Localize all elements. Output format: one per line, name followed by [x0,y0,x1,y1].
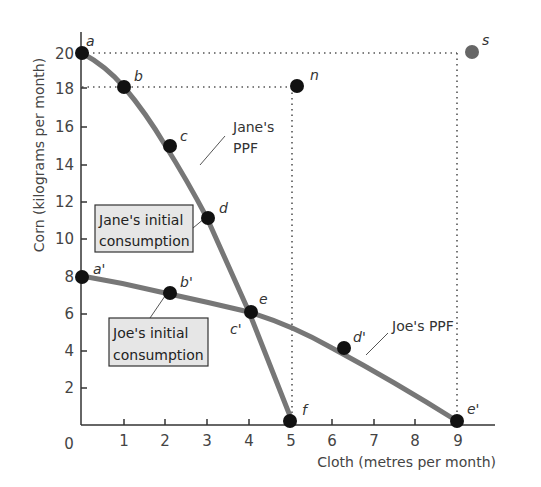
svg-text:6: 6 [64,305,74,323]
jane-ppf-label-line2: PPF [233,140,258,156]
svg-text:d: d [219,200,228,216]
svg-text:e: e [259,291,268,307]
jane-ppf-label-line1: Jane's [232,119,274,135]
svg-text:c': c' [230,321,242,337]
svg-text:e': e' [467,401,479,417]
point-d [201,211,215,225]
svg-text:Jane's initial: Jane's initial [98,212,183,228]
svg-text:a': a' [93,261,105,277]
svg-text:14: 14 [55,156,74,174]
point-c [163,139,177,153]
svg-text:consumption: consumption [99,233,190,249]
point-b [117,80,131,94]
jane-initial-consumption-box: Jane's initial consumption [95,205,193,252]
x-axis-title: Cloth (metres per month) [317,454,496,470]
svg-text:consumption: consumption [113,347,204,363]
svg-text:16: 16 [55,118,74,136]
svg-text:Joe's initial: Joe's initial [112,325,188,341]
x-tick-labels: 0 1 2 3 4 5 6 7 8 9 [64,432,463,453]
ppf-chart: 2 4 6 8 10 12 14 16 18 20 0 1 2 3 4 5 6 … [0,0,541,487]
svg-text:18: 18 [55,80,74,98]
svg-text:20: 20 [55,45,74,63]
joe-initial-consumption-box: Joe's initial consumption [109,318,208,366]
point-f [283,414,297,428]
point-n [290,79,304,93]
svg-text:a: a [86,33,95,49]
point-b-prime [163,286,177,300]
svg-text:n: n [310,67,319,83]
svg-text:b: b [134,68,143,84]
svg-text:f: f [302,402,309,418]
svg-text:8: 8 [410,432,420,450]
svg-text:d': d' [353,329,366,345]
point-d-prime [337,341,351,355]
svg-text:7: 7 [369,432,379,450]
svg-text:s: s [482,32,489,48]
svg-text:4: 4 [244,432,254,450]
svg-text:6: 6 [327,432,337,450]
svg-text:2: 2 [160,432,170,450]
svg-text:4: 4 [64,342,74,360]
point-a-prime [75,270,89,284]
y-tick-labels: 2 4 6 8 10 12 14 16 18 20 [55,45,74,397]
svg-text:10: 10 [55,230,74,248]
joe-ppf-label: Joe's PPF [391,318,454,334]
svg-text:2: 2 [64,379,74,397]
svg-text:9: 9 [453,432,463,450]
point-e-prime [450,414,464,428]
svg-text:0: 0 [64,435,74,453]
svg-text:1: 1 [119,432,129,450]
point-e [244,305,258,319]
svg-text:8: 8 [64,268,74,286]
svg-text:12: 12 [55,193,74,211]
svg-text:5: 5 [286,432,296,450]
y-axis-title: Corn (kilograms per month) [31,58,47,252]
svg-text:c: c [180,128,188,144]
point-s [465,45,479,59]
svg-text:3: 3 [202,432,212,450]
svg-text:b': b' [180,274,193,290]
